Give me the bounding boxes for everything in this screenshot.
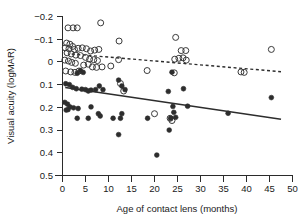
data-point-open <box>74 25 80 31</box>
data-point-filled <box>269 95 274 100</box>
x-axis-ticks: 05101520253035404550 <box>60 176 298 195</box>
data-point-open <box>108 63 114 69</box>
data-point-filled <box>167 128 172 133</box>
y-tick-label: −0.1 <box>34 34 53 45</box>
data-point-filled <box>118 116 123 121</box>
data-point-filled <box>74 86 79 91</box>
data-point-filled <box>64 108 69 113</box>
scatter-plot-figure: −0.2−0.100.10.20.30.40.5 051015202530354… <box>0 0 306 222</box>
data-point-open <box>98 20 104 26</box>
data-point-filled <box>171 104 176 109</box>
data-point-filled <box>166 89 171 94</box>
data-point-open <box>94 58 100 64</box>
data-point-filled <box>75 71 80 76</box>
y-tick-label: 0.2 <box>40 102 53 113</box>
data-point-filled <box>145 116 150 121</box>
data-point-open <box>96 46 102 52</box>
data-point-filled <box>111 116 116 121</box>
data-point-open <box>116 38 122 44</box>
x-tick-label: 0 <box>60 183 65 194</box>
data-point-filled <box>71 105 76 110</box>
data-point-open <box>172 56 178 62</box>
x-axis-title: Age of contact lens (months) <box>117 203 238 214</box>
x-tick-label: 45 <box>264 183 275 194</box>
x-tick-label: 40 <box>241 183 252 194</box>
data-point-open <box>72 60 78 66</box>
data-point-filled <box>93 87 98 92</box>
data-point-filled <box>154 153 159 158</box>
data-point-filled <box>185 104 190 109</box>
data-point-filled <box>119 111 124 116</box>
data-point-filled <box>86 116 91 121</box>
data-point-filled <box>75 116 80 121</box>
data-point-open <box>268 46 274 52</box>
y-axis-ticks: −0.2−0.100.10.20.30.40.5 <box>34 11 62 181</box>
data-point-filled <box>89 88 94 93</box>
x-tick-label: 20 <box>149 183 160 194</box>
data-point-filled <box>170 70 175 75</box>
data-point-filled <box>171 110 176 115</box>
data-point-filled <box>123 87 128 92</box>
x-tick-label: 25 <box>172 183 183 194</box>
data-point-filled <box>181 86 186 91</box>
y-axis-title: Visual acuity (logMAR) <box>5 48 16 144</box>
y-tick-label: 0 <box>48 56 53 67</box>
data-point-open <box>152 111 158 117</box>
data-point-filled <box>116 78 121 83</box>
data-point-open <box>79 45 85 51</box>
x-tick-label: 35 <box>218 183 229 194</box>
data-point-filled <box>76 106 81 111</box>
y-tick-label: 0.3 <box>40 124 53 135</box>
data-point-filled <box>226 111 231 116</box>
x-tick-label: 5 <box>83 183 88 194</box>
y-tick-label: 0.1 <box>40 79 53 90</box>
y-tick-label: −0.2 <box>34 11 53 22</box>
data-point-filled <box>98 114 103 119</box>
data-point-filled <box>81 70 86 75</box>
y-tick-label: 0.5 <box>40 170 53 181</box>
data-point-filled <box>97 84 102 89</box>
data-point-filled <box>168 116 173 121</box>
y-tick-label: 0.4 <box>40 147 53 158</box>
data-point-filled <box>116 132 121 137</box>
x-tick-label: 15 <box>126 183 137 194</box>
data-point-open <box>173 34 179 40</box>
open-circle-points <box>62 20 275 124</box>
chart-canvas: −0.2−0.100.10.20.30.40.5 051015202530354… <box>0 0 306 222</box>
x-tick-label: 30 <box>195 183 206 194</box>
data-point-open <box>144 68 150 74</box>
data-point-filled <box>89 105 94 110</box>
data-point-filled <box>173 115 178 120</box>
x-tick-label: 10 <box>103 183 114 194</box>
data-point-filled <box>101 87 106 92</box>
x-tick-label: 50 <box>287 183 298 194</box>
